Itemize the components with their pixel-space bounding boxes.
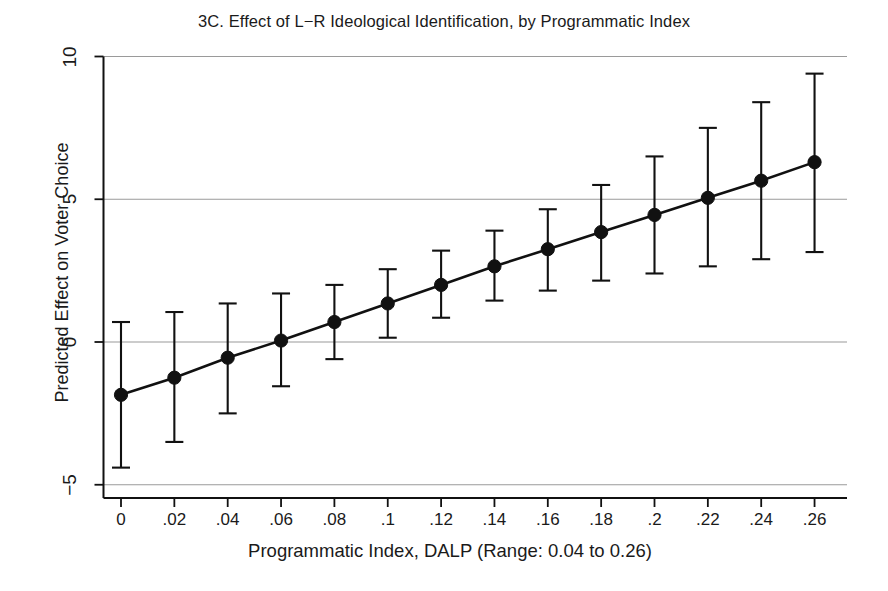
x-tick-label: .04 — [198, 510, 258, 530]
data-point-marker[interactable] — [808, 156, 821, 169]
data-point-marker[interactable] — [595, 225, 608, 238]
x-tick-label: .12 — [411, 510, 471, 530]
plot-area — [0, 0, 888, 591]
data-point-marker[interactable] — [274, 334, 287, 347]
x-tick-label: .1 — [358, 510, 418, 530]
data-point-marker[interactable] — [755, 174, 768, 187]
y-tick-label: 10 — [59, 35, 81, 79]
x-tick-label: .08 — [304, 510, 364, 530]
data-point-marker[interactable] — [541, 243, 554, 256]
x-tick-label: .16 — [518, 510, 578, 530]
x-tick-label: .22 — [678, 510, 738, 530]
x-tick-label: .14 — [464, 510, 524, 530]
x-tick-label: .26 — [785, 510, 845, 530]
data-point-marker[interactable] — [328, 315, 341, 328]
x-tick-label: .06 — [251, 510, 311, 530]
data-point-marker[interactable] — [168, 371, 181, 384]
data-point-marker[interactable] — [648, 208, 661, 221]
data-point-marker[interactable] — [381, 297, 394, 310]
x-tick-label: .2 — [625, 510, 685, 530]
x-tick-label: .24 — [731, 510, 791, 530]
data-point-marker[interactable] — [435, 278, 448, 291]
x-tick-label: .18 — [571, 510, 631, 530]
x-tick-label: 0 — [91, 510, 151, 530]
x-tick-label: .02 — [144, 510, 204, 530]
data-point-marker[interactable] — [701, 191, 714, 204]
data-point-marker[interactable] — [114, 388, 127, 401]
y-tick-label: 5 — [59, 177, 81, 221]
data-point-marker[interactable] — [221, 351, 234, 364]
figure-canvas: 3C. Effect of L−R Ideological Identifica… — [0, 0, 888, 591]
y-tick-label: −5 — [59, 463, 81, 507]
y-tick-label: 0 — [59, 320, 81, 364]
data-point-marker[interactable] — [488, 260, 501, 273]
